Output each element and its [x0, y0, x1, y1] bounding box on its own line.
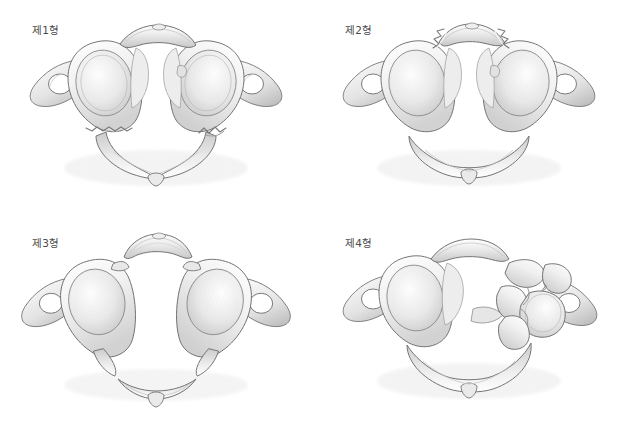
dens-facet-left-shade — [442, 263, 463, 325]
figure-root: 제1형 — [0, 0, 626, 426]
dens-facet-right-shade — [164, 48, 182, 108]
fragment-anterior-arch — [124, 233, 192, 259]
dens-facet-right-shade — [477, 48, 495, 108]
panel-type-3: 제3형 — [0, 213, 313, 426]
right-inner-tubercle — [490, 65, 500, 77]
fragment-right-lateral — [173, 258, 293, 381]
fragment-left-lateral — [19, 258, 139, 381]
comminuted-fragment-group — [497, 260, 572, 350]
right-inner-tubercle — [177, 65, 187, 77]
dens-facet-left-shade — [444, 48, 462, 108]
atlas-body-type-1 — [30, 24, 282, 186]
atlas-body-type-4 — [343, 239, 597, 399]
fragment-inferomedial — [499, 316, 530, 350]
panel-label-type-4: 제4형 — [345, 237, 372, 250]
panel-type-1: 제1형 — [0, 0, 313, 213]
panel-label-type-1: 제1형 — [32, 24, 59, 37]
panel-label-type-3: 제3형 — [32, 237, 59, 250]
posterior-tubercle — [148, 392, 164, 407]
dens-facet-left-shade — [131, 48, 149, 108]
panel-type-4: 제4형 — [313, 213, 626, 426]
atlas-body-type-3 — [19, 233, 293, 407]
panel-label-type-2: 제2형 — [345, 24, 372, 37]
atlas-body-type-2 — [343, 23, 595, 186]
panel-type-2: 제2형 — [313, 0, 626, 213]
